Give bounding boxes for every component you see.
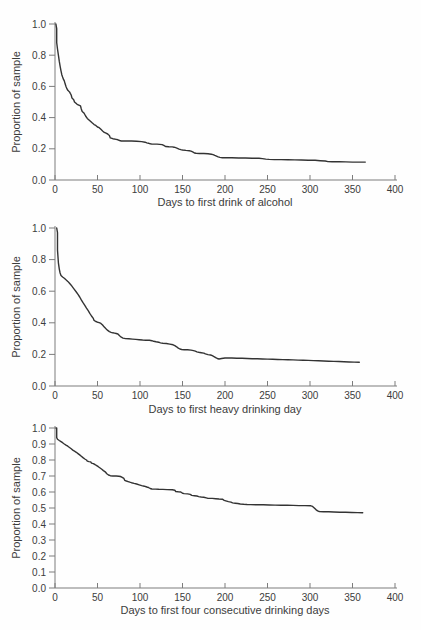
x-tick-label: 0 [52,390,58,401]
chart-days-to-first-drink: 0501001502002503003504000.00.20.40.60.81… [0,0,421,210]
y-axis-title: Proportion of sample [11,51,22,153]
survival-curve [56,428,363,513]
plot-days-to-first-drink: 0501001502002503003504000.00.20.40.60.81… [0,0,421,210]
x-tick-label: 150 [174,390,191,401]
y-axis-title: Proportion of sample [11,457,22,559]
y-tick-label: 0.5 [32,503,46,514]
y-tick-label: 0.4 [32,317,46,328]
x-tick-label: 300 [302,390,319,401]
y-tick-label: 0.6 [32,81,46,92]
y-tick-label: 0.3 [32,535,46,546]
x-tick-label: 250 [259,184,276,195]
x-tick-label: 200 [217,390,234,401]
survival-curve [56,24,365,162]
y-tick-label: 0.8 [32,254,46,265]
y-tick-label: 0.7 [32,471,46,482]
x-tick-label: 100 [132,184,149,195]
x-tick-label: 150 [174,592,191,603]
x-tick-label: 0 [52,184,58,195]
x-axis-title: Days to first heavy drinking day [55,404,395,415]
y-axis-title: Proportion of sample [11,256,22,358]
x-tick-label: 400 [387,592,404,603]
y-tick-label: 0.1 [32,567,46,578]
y-tick-label: 0.2 [32,349,46,360]
plot-days-to-four-consecutive-days: 0501001502002503003504000.00.10.20.30.40… [0,420,421,630]
x-tick-label: 350 [344,592,361,603]
chart-days-to-first-heavy-drinking: 0501001502002503003504000.00.20.40.60.81… [0,210,421,420]
x-axis-title: Days to first drink of alcohol [55,197,395,208]
x-tick-label: 200 [217,184,234,195]
y-tick-label: 0.8 [32,50,46,61]
y-tick-label: 1.0 [32,423,46,434]
x-tick-label: 350 [344,390,361,401]
x-tick-label: 100 [132,390,149,401]
y-tick-label: 1.0 [32,19,46,30]
x-tick-label: 50 [92,390,104,401]
y-tick-label: 0.2 [32,143,46,154]
x-tick-label: 400 [387,184,404,195]
y-tick-label: 0.0 [32,381,46,392]
x-tick-label: 350 [344,184,361,195]
x-tick-label: 100 [132,592,149,603]
x-tick-label: 300 [302,184,319,195]
x-tick-label: 200 [217,592,234,603]
y-tick-label: 0.0 [32,175,46,186]
x-tick-label: 50 [92,592,104,603]
x-tick-label: 0 [52,592,58,603]
survival-curve [57,228,360,362]
x-tick-label: 300 [302,592,319,603]
y-tick-label: 0.2 [32,551,46,562]
x-tick-label: 250 [259,592,276,603]
x-tick-label: 50 [92,184,104,195]
y-tick-label: 0.4 [32,112,46,123]
x-tick-label: 250 [259,390,276,401]
y-tick-label: 0.6 [32,286,46,297]
y-tick-label: 0.4 [32,519,46,530]
x-tick-label: 400 [387,390,404,401]
x-tick-label: 150 [174,184,191,195]
y-tick-label: 0.9 [32,439,46,450]
chart-days-to-four-consecutive-days: 0501001502002503003504000.00.10.20.30.40… [0,420,421,630]
x-axis-title: Days to first four consecutive drinking … [55,605,395,616]
survival-curves-figure: 0501001502002503003504000.00.20.40.60.81… [0,0,421,630]
plot-days-to-first-heavy-drinking: 0501001502002503003504000.00.20.40.60.81… [0,210,421,420]
y-tick-label: 1.0 [32,223,46,234]
y-tick-label: 0.0 [32,583,46,594]
y-tick-label: 0.6 [32,487,46,498]
y-tick-label: 0.8 [32,455,46,466]
